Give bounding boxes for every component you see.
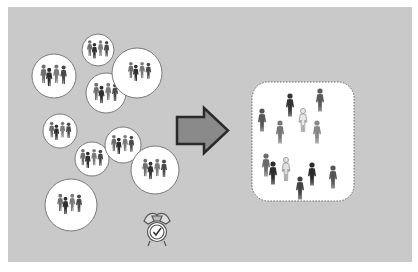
small-group: [112, 48, 162, 98]
small-group: [131, 146, 179, 194]
small-group: [45, 179, 97, 231]
diagram: [0, 0, 418, 272]
small-group: [43, 114, 77, 148]
small-group: [32, 54, 76, 98]
right-arrow-icon: [177, 108, 228, 153]
small-group: [75, 142, 109, 176]
large-group: [252, 82, 354, 201]
alarm-clock-icon: [144, 213, 170, 246]
small-group: [82, 34, 114, 66]
